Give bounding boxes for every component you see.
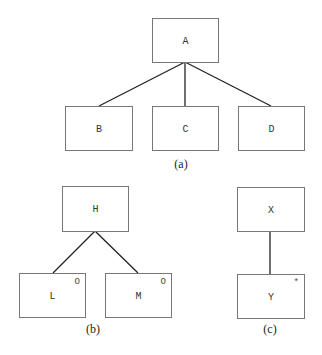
node-label: X — [238, 204, 304, 215]
node-b: B — [65, 106, 133, 151]
caption-c: (c) — [263, 322, 276, 337]
node-y: Y * — [237, 274, 305, 319]
node-a: A — [152, 18, 219, 63]
node-l: L O — [19, 273, 86, 318]
node-d: D — [238, 106, 305, 151]
node-label: A — [153, 35, 218, 46]
node-label: H — [63, 204, 128, 215]
node-label: Y — [238, 291, 304, 302]
node-marker: O — [75, 277, 80, 287]
node-x: X — [237, 187, 305, 232]
node-label: C — [153, 123, 218, 134]
node-marker: O — [161, 277, 166, 287]
node-label: B — [66, 123, 132, 134]
node-marker: * — [294, 278, 299, 288]
node-label: M — [106, 290, 171, 301]
node-label: L — [20, 290, 85, 301]
caption-b: (b) — [86, 322, 100, 337]
node-label: D — [239, 123, 304, 134]
node-c: C — [152, 106, 219, 151]
node-m: M O — [105, 273, 172, 318]
node-h: H — [62, 186, 129, 232]
caption-a: (a) — [174, 157, 187, 172]
